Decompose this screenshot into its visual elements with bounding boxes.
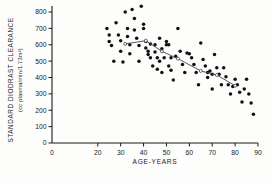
x-tick-label-40: 40: [140, 149, 148, 156]
trend-line: [125, 41, 235, 86]
data-point: [156, 56, 160, 60]
data-point: [142, 23, 146, 27]
data-point: [160, 71, 164, 75]
data-point: [176, 27, 180, 31]
data-point: [133, 17, 137, 21]
data-point: [146, 53, 150, 57]
data-point: [197, 83, 201, 87]
trend-point: [124, 42, 127, 45]
data-point: [240, 100, 244, 104]
data-point: [158, 36, 162, 40]
data-point: [110, 44, 114, 48]
trend-point: [199, 69, 202, 72]
data-point: [194, 71, 198, 75]
data-point: [167, 64, 171, 68]
data-point: [165, 40, 169, 44]
data-point: [142, 27, 146, 31]
data-point: [126, 35, 130, 39]
data-point: [156, 68, 160, 72]
y-tick-label-500: 500: [35, 58, 47, 65]
data-point: [201, 58, 205, 62]
figure-panel: 0100200300400500600700800020304050607080…: [0, 0, 273, 185]
data-point: [245, 77, 249, 81]
data-point: [249, 101, 253, 105]
x-tick-label-30: 30: [117, 149, 125, 156]
data-point: [213, 53, 217, 57]
data-point: [151, 64, 155, 68]
data-point: [117, 33, 121, 37]
y-axis-title-line2: (cc plasma/min/1.73m²): [17, 48, 23, 112]
data-point: [149, 56, 153, 60]
x-tick-label-0: 0: [50, 149, 54, 156]
x-tick-label-90: 90: [254, 149, 262, 156]
y-tick-label-700: 700: [35, 25, 47, 32]
data-point: [190, 56, 194, 60]
data-point: [243, 87, 247, 91]
data-point: [208, 69, 212, 73]
data-point: [204, 64, 208, 68]
data-point: [153, 50, 157, 54]
y-tick-label-400: 400: [35, 74, 47, 81]
trend-point: [176, 57, 179, 60]
data-point: [222, 66, 226, 70]
data-point: [210, 87, 214, 91]
data-point: [140, 5, 144, 9]
y-tick-label-300: 300: [35, 90, 47, 97]
trend-point: [160, 50, 163, 53]
x-tick-label-80: 80: [231, 149, 239, 156]
x-axis-title: AGE-YEARS: [133, 158, 178, 165]
data-point: [123, 10, 127, 14]
x-tick-label-20: 20: [94, 149, 102, 156]
scatter-plot: 0100200300400500600700800020304050607080…: [0, 0, 273, 185]
data-point: [135, 36, 139, 40]
data-point: [105, 27, 109, 31]
data-point: [220, 83, 224, 87]
data-point: [107, 33, 111, 37]
y-tick-label-600: 600: [35, 41, 47, 48]
trend-point: [234, 84, 237, 87]
data-point: [229, 92, 233, 96]
data-point: [169, 68, 173, 72]
data-point: [192, 63, 196, 67]
y-axis-title-line1: STANDARD DIODRAST CLEARANCE: [7, 17, 14, 142]
data-point: [167, 43, 171, 47]
data-point: [252, 113, 256, 117]
data-point: [137, 59, 141, 63]
data-point: [133, 28, 137, 32]
x-tick-label-60: 60: [186, 149, 194, 156]
data-point: [199, 41, 203, 45]
data-point: [114, 21, 118, 25]
data-point: [126, 27, 130, 31]
y-tick-label-100: 100: [35, 123, 47, 130]
data-point: [128, 52, 132, 56]
trend-point: [144, 39, 147, 42]
data-point: [233, 77, 237, 81]
data-point: [119, 39, 123, 43]
data-point: [144, 46, 148, 50]
data-point: [224, 75, 228, 79]
data-point: [183, 71, 187, 75]
y-tick-label-800: 800: [35, 8, 47, 15]
x-tick-label-50: 50: [163, 149, 171, 156]
x-tick-label-70: 70: [208, 149, 216, 156]
data-point: [119, 50, 123, 54]
data-point: [238, 90, 242, 94]
data-point: [181, 63, 185, 67]
trend-point: [215, 74, 218, 77]
data-point: [158, 59, 162, 63]
data-point: [137, 44, 141, 48]
trend-markers: [124, 39, 237, 87]
data-point: [162, 56, 166, 60]
data-point: [226, 83, 230, 87]
data-point: [172, 78, 176, 82]
data-point: [121, 60, 125, 64]
data-point: [146, 50, 150, 54]
data-point: [247, 92, 251, 96]
data-point: [130, 8, 134, 12]
y-tick-label-0: 0: [43, 139, 47, 146]
data-point: [178, 50, 182, 54]
y-tick-label-200: 200: [35, 107, 47, 114]
data-point: [107, 40, 111, 44]
data-point: [112, 59, 116, 63]
data-point: [188, 52, 192, 56]
